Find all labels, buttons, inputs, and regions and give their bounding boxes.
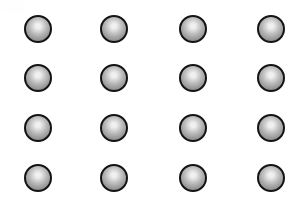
sphere [100,64,128,92]
sphere-shading [24,15,52,43]
sphere-shading [24,164,52,192]
sphere [179,164,207,192]
sphere-shading [179,164,207,192]
sphere [24,164,52,192]
sphere-shading [257,64,285,92]
sphere [100,15,128,43]
sphere [24,114,52,142]
sphere-shading [24,64,52,92]
sphere [179,114,207,142]
sphere-shading [257,164,285,192]
sphere [257,15,285,43]
sphere-shading [179,64,207,92]
sphere-shading [179,15,207,43]
sphere [100,114,128,142]
sphere-shading [24,114,52,142]
sphere [24,64,52,92]
sphere-shading [100,114,128,142]
sphere [257,164,285,192]
sphere-grid [0,0,301,200]
corner-artifact [2,1,24,13]
sphere [257,114,285,142]
sphere-shading [100,15,128,43]
sphere-shading [179,114,207,142]
sphere-shading [257,15,285,43]
sphere-shading [257,114,285,142]
sphere [179,64,207,92]
sphere [100,164,128,192]
sphere-shading [100,64,128,92]
sphere [179,15,207,43]
sphere [24,15,52,43]
sphere-shading [100,164,128,192]
sphere [257,64,285,92]
